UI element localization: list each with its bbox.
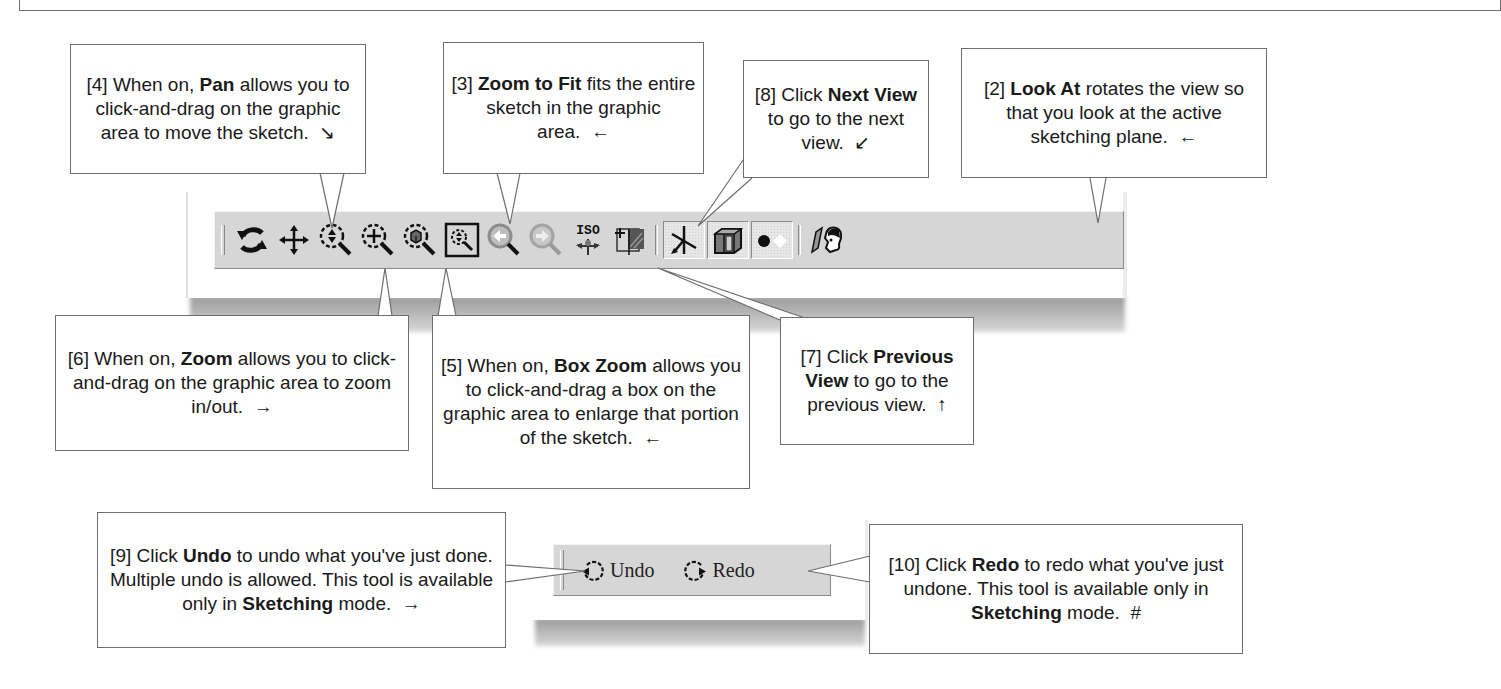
arrow-marker: ← — [1178, 126, 1197, 147]
undo-button[interactable]: Undo — [570, 545, 664, 595]
arrow-marker: → — [402, 593, 421, 614]
look-at-button[interactable] — [805, 221, 847, 259]
undo-label: Undo — [610, 559, 654, 582]
previous-view-button[interactable] — [483, 221, 525, 259]
redo-label: Redo — [712, 559, 754, 582]
zoom-to-fit-icon — [401, 221, 439, 259]
toolbar-separator — [798, 225, 801, 255]
zoom-icon — [317, 221, 355, 259]
arrow-marker: ↙ — [854, 132, 870, 153]
triad-icon — [666, 222, 702, 258]
arrow-marker: ← — [591, 121, 610, 142]
model-icon — [710, 222, 746, 258]
new-sketch-icon — [611, 221, 649, 259]
previous-view-icon — [485, 221, 523, 259]
zoom-to-fit-button[interactable] — [399, 221, 441, 259]
hash-marker: # — [1130, 602, 1141, 623]
callout-pan: [4] When on, Pan allows you to click-and… — [70, 44, 366, 174]
pan-icon — [277, 223, 311, 257]
sketching-term: Sketching — [971, 602, 1062, 623]
undo-icon — [580, 557, 606, 583]
zoom-to-fit-term: Zoom to Fit — [478, 73, 581, 94]
look-at-icon — [806, 222, 846, 258]
undo-panel-shadow — [535, 618, 865, 646]
arrow-marker: ↘ — [319, 122, 335, 143]
box-zoom-term: Box Zoom — [554, 355, 647, 376]
callout-previous-view: [7] Click Previous View to go to the pre… — [780, 317, 974, 445]
toolbar-grip[interactable] — [560, 550, 564, 590]
iso-view-icon: ISO — [568, 221, 608, 259]
callout-zoom: [6] When on, Zoom allows you to click-an… — [55, 315, 409, 451]
callout-zoom-to-fit: [3] Zoom to Fit fits the entire sketch i… — [443, 42, 704, 174]
redo-icon — [682, 557, 708, 583]
rotate-icon — [235, 223, 269, 257]
pan-button[interactable] — [273, 221, 315, 259]
toolbar-separator — [655, 225, 658, 255]
rotate-button[interactable] — [231, 221, 273, 259]
undo-toolbar: Undo Redo — [553, 544, 831, 596]
redo-button[interactable]: Redo — [672, 545, 764, 595]
next-view-button[interactable] — [525, 221, 567, 259]
display-model-toggle[interactable] — [707, 221, 749, 259]
previous-figure-frame — [19, 0, 1501, 11]
next-view-icon — [527, 221, 565, 259]
new-sketch-button[interactable] — [609, 221, 651, 259]
callout-redo: [10] Click Redo to redo what you've just… — [869, 524, 1243, 654]
display-triad-toggle[interactable] — [663, 221, 705, 259]
view-toolbar: ISO — [214, 211, 1124, 269]
arrow-marker: ← — [643, 427, 662, 448]
arrow-marker: ↑ — [937, 394, 947, 415]
toolbar-grip[interactable] — [221, 225, 225, 255]
iso-view-button[interactable]: ISO — [567, 221, 609, 259]
points-icon — [753, 222, 791, 258]
undo-term: Undo — [183, 545, 232, 566]
box-zoom-button[interactable] — [357, 221, 399, 259]
callout-box-zoom: [5] When on, Box Zoom allows you to clic… — [432, 315, 750, 489]
next-view-term: Next View — [828, 84, 917, 105]
display-points-toggle[interactable] — [751, 221, 793, 259]
zoom-to-selected-icon — [443, 221, 481, 259]
zoom-to-selected-button[interactable] — [441, 221, 483, 259]
callout-undo: [9] Click Undo to undo what you've just … — [97, 512, 506, 648]
arrow-marker: → — [254, 396, 273, 417]
pan-term: Pan — [200, 74, 235, 95]
callout-look-at: [2] Look At rotates the view so that you… — [961, 48, 1267, 178]
zoom-term: Zoom — [181, 348, 233, 369]
callout-next-view: [8] Click Next View to go to the next vi… — [743, 60, 929, 178]
sketching-term: Sketching — [242, 593, 333, 614]
redo-term: Redo — [972, 554, 1020, 575]
look-at-term: Look At — [1010, 78, 1080, 99]
zoom-button[interactable] — [315, 221, 357, 259]
box-zoom-icon — [359, 221, 397, 259]
svg-text:ISO: ISO — [576, 223, 600, 238]
